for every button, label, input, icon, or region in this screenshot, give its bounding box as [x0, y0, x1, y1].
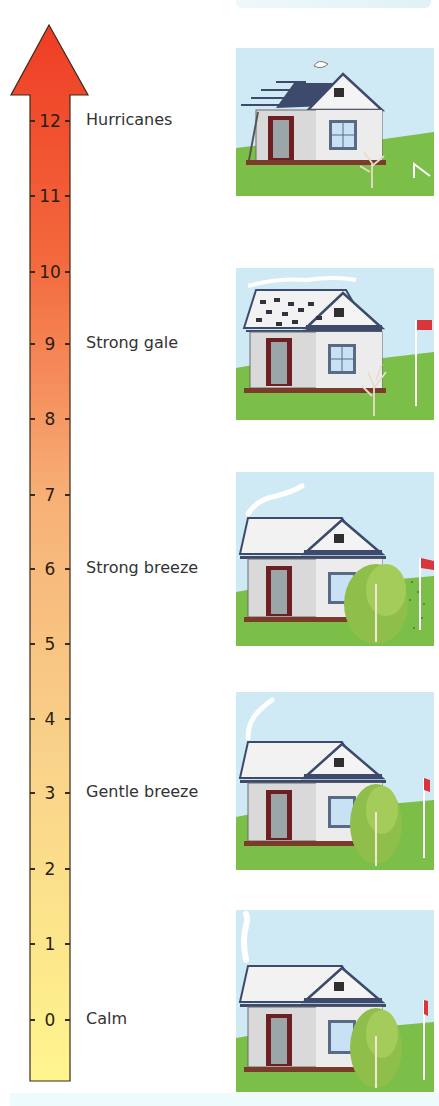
tick-label: 10	[30, 262, 70, 282]
bottom-decorative-strip	[10, 1093, 439, 1106]
tick-label: 0	[30, 1010, 70, 1030]
level-label-strong-breeze: Strong breeze	[86, 558, 198, 578]
tick-label: 11	[30, 186, 70, 206]
tick-label: 4	[30, 709, 70, 729]
tick-label: 3	[30, 783, 70, 803]
tick-label: 2	[30, 859, 70, 879]
tick-label: 9	[30, 334, 70, 354]
scene-calm	[236, 910, 434, 1092]
level-label-calm: Calm	[86, 1009, 127, 1029]
level-label-hurricanes: Hurricanes	[86, 110, 172, 130]
tick-label: 1	[30, 934, 70, 954]
level-label-strong-gale: Strong gale	[86, 333, 178, 353]
wind-scale-arrow: 0123456789101112	[0, 0, 100, 1106]
scene-strong-breeze	[236, 472, 434, 646]
tick-label: 7	[30, 485, 70, 505]
tick-label: 8	[30, 409, 70, 429]
level-label-gentle-breeze: Gentle breeze	[86, 782, 198, 802]
scene-hurricanes	[236, 48, 434, 196]
scene-strong-gale	[236, 268, 434, 420]
top-decorative-strip	[236, 0, 431, 8]
scene-gentle-breeze	[236, 692, 434, 870]
tick-label: 6	[30, 559, 70, 579]
tick-label: 5	[30, 634, 70, 654]
tick-label: 12	[30, 111, 70, 131]
